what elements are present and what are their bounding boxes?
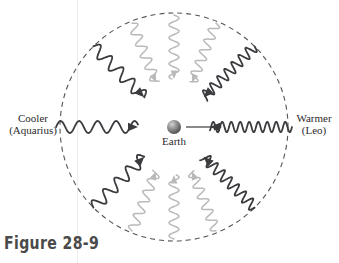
label-cooler-secondary: (Aquarius) bbox=[4, 124, 62, 136]
label-warmer-primary: Warmer bbox=[289, 112, 339, 124]
wave-left bbox=[56, 121, 138, 133]
wave-bottom-right-arrowhead bbox=[192, 172, 198, 181]
label-cooler: Cooler (Aquarius) bbox=[4, 112, 62, 137]
wave-lower-left-arrowhead bbox=[134, 157, 144, 167]
wave-upper-left-arrowhead bbox=[134, 87, 144, 97]
figure-page: Cooler (Aquarius) Warmer (Leo) Earth Fig… bbox=[0, 0, 339, 263]
earth-sphere bbox=[167, 120, 181, 134]
label-warmer: Warmer (Leo) bbox=[289, 112, 339, 137]
wave-top-right bbox=[190, 23, 219, 82]
wave-left-arrowhead bbox=[128, 123, 138, 131]
label-earth: Earth bbox=[144, 135, 204, 147]
wave-top-left bbox=[131, 23, 159, 81]
label-cooler-primary: Cooler bbox=[4, 112, 62, 124]
label-warmer-secondary: (Leo) bbox=[289, 124, 339, 136]
wave-right bbox=[210, 122, 292, 132]
wave-top-center bbox=[169, 15, 179, 79]
wave-bottom-center bbox=[169, 175, 179, 239]
figure-caption: Figure 28-9 bbox=[4, 233, 99, 253]
